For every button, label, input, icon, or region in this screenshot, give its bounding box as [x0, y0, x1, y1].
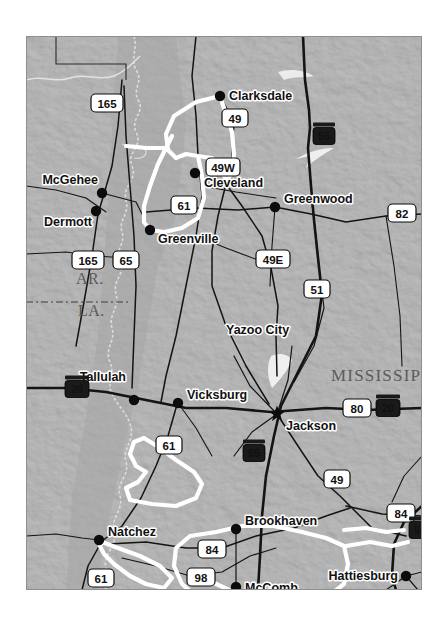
shield-interstate-55[interactable]: 55 — [313, 123, 335, 145]
shield-us-165[interactable]: 165 — [91, 94, 123, 112]
shield-us-49E[interactable]: 49E — [256, 250, 290, 268]
city-marker-greenville[interactable] — [145, 225, 155, 235]
shield-us-82[interactable]: 82 — [388, 204, 416, 222]
shield-number: 55 — [248, 447, 260, 459]
map-figure: ClarksdaleClarksdaleClevelandClevelandGr… — [0, 0, 448, 632]
shield-number: 84 — [395, 508, 408, 520]
city-label-greenville: Greenville — [158, 232, 218, 246]
shield-number: 51 — [311, 284, 324, 296]
shield-us-61[interactable]: 61 — [156, 436, 182, 454]
city-marker-hattiesburg[interactable] — [401, 571, 411, 581]
shield-interstate-20[interactable]: 20 — [376, 395, 400, 417]
shield-interstate-55[interactable]: 55 — [243, 440, 265, 462]
city-marker-clarksdale[interactable] — [215, 91, 225, 101]
shield-number: 49W — [211, 162, 235, 174]
shield-us-49W[interactable]: 49W — [206, 158, 240, 176]
city-label-hattiesburg: Hattiesburg — [329, 569, 398, 583]
city-marker-brookhaven[interactable] — [231, 524, 241, 534]
shield-banner — [376, 395, 400, 399]
city-label-natchez: Natchez — [108, 525, 156, 539]
shield-number: 82 — [396, 208, 409, 220]
shield-number: 49 — [331, 474, 344, 486]
shield-number: 55 — [318, 130, 330, 142]
city-label-clarksdale: Clarksdale — [229, 89, 292, 103]
city-marker-natchez[interactable] — [94, 535, 104, 545]
shield-banner — [65, 376, 89, 380]
city-marker-tallulah[interactable] — [129, 395, 139, 405]
shield-number: 61 — [95, 573, 108, 585]
shield-interstate-20[interactable]: 20 — [65, 376, 89, 398]
shield-us-49[interactable]: 49 — [222, 109, 248, 127]
shield-number: 20 — [71, 383, 83, 395]
city-label-vicksburg: Vicksburg — [187, 388, 247, 402]
shield-us-61[interactable]: 61 — [88, 569, 114, 587]
state-label-mississippi: MISSISSIPPI — [331, 366, 422, 385]
shield-number: 80 — [351, 403, 364, 415]
shield-number: 165 — [78, 255, 98, 267]
city-label-yazoo-city: Yazoo City — [226, 323, 289, 337]
shield-number: 165 — [97, 98, 117, 110]
shield-number: 84 — [206, 544, 219, 556]
shield-us-98[interactable]: 98 — [187, 568, 215, 586]
shield-us-49[interactable]: 49 — [324, 470, 350, 488]
shield-us-80[interactable]: 80 — [343, 399, 371, 417]
shield-interstate-59[interactable]: 59 — [409, 517, 422, 539]
city-label-dermott: Dermott — [44, 215, 93, 229]
shield-banner — [313, 123, 335, 127]
city-label-greenwood: Greenwood — [284, 192, 353, 206]
map-canvas[interactable]: ClarksdaleClarksdaleClevelandClevelandGr… — [26, 36, 422, 590]
city-marker-greenwood[interactable] — [270, 202, 280, 212]
city-label-mcgehee: McGehee — [42, 173, 98, 187]
shield-banner — [243, 440, 265, 444]
shield-number: 98 — [195, 572, 208, 584]
shield-us-65[interactable]: 65 — [113, 251, 139, 269]
city-marker-dermott[interactable] — [91, 206, 101, 216]
state-label-ar: AR. — [76, 270, 104, 287]
shield-number: 59 — [414, 524, 422, 536]
shield-number: 61 — [178, 200, 191, 212]
shield-us-61[interactable]: 61 — [171, 196, 197, 214]
shield-number: 49 — [229, 113, 242, 125]
shield-us-51[interactable]: 51 — [304, 280, 330, 298]
shield-banner — [409, 517, 422, 521]
city-marker-vicksburg[interactable] — [173, 398, 183, 408]
shield-us-165[interactable]: 165 — [72, 251, 104, 269]
city-marker-cleveland[interactable] — [190, 168, 200, 178]
city-label-cleveland: Cleveland — [204, 176, 263, 190]
shield-number: 61 — [163, 440, 176, 452]
shield-us-84[interactable]: 84 — [198, 540, 226, 558]
city-marker-mcgehee[interactable] — [97, 188, 107, 198]
map-svg[interactable]: ClarksdaleClarksdaleClevelandClevelandGr… — [26, 36, 422, 590]
shield-number: 20 — [382, 402, 394, 414]
state-label-la: LA. — [78, 302, 105, 319]
city-label-brookhaven: Brookhaven — [245, 514, 317, 528]
shield-number: 65 — [120, 255, 133, 267]
city-label-jackson: Jackson — [286, 419, 336, 433]
shield-number: 49E — [263, 254, 284, 266]
city-label-mccomb: McComb — [245, 581, 298, 590]
corridor-hattiesburg-east2 — [346, 542, 408, 546]
